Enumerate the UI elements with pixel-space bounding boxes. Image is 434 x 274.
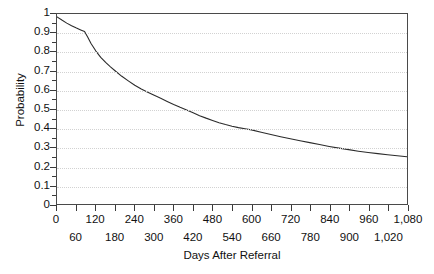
x-axis-title: Days After Referral: [56, 249, 408, 261]
y-tick-mark: [50, 147, 56, 148]
x-tick-mark: [388, 205, 389, 211]
x-tick-mark: [95, 205, 96, 211]
x-tick-mark: [212, 205, 213, 211]
y-tick-label: 0.2: [14, 161, 50, 173]
gridline: [57, 168, 407, 169]
y-tick-label: 0.7: [14, 65, 50, 77]
plot-area: [56, 13, 408, 205]
x-tick-mark: [232, 205, 233, 211]
gridline: [57, 129, 407, 130]
y-tick-mark-minor: [52, 138, 56, 139]
x-tick-mark: [291, 205, 292, 211]
x-tick-mark: [134, 205, 135, 211]
gridline: [57, 33, 407, 34]
y-tick-mark-minor: [52, 195, 56, 196]
x-tick-mark: [154, 205, 155, 211]
y-tick-mark-minor: [52, 176, 56, 177]
gridline: [57, 148, 407, 149]
x-tick-mark: [330, 205, 331, 211]
y-tick-mark: [50, 109, 56, 110]
y-tick-mark-minor: [52, 157, 56, 158]
y-tick-mark: [50, 32, 56, 33]
y-tick-mark: [50, 51, 56, 52]
y-tick-mark-minor: [52, 80, 56, 81]
gridline: [57, 110, 407, 111]
y-tick-mark: [50, 167, 56, 168]
x-tick-mark: [173, 205, 174, 211]
x-tick-mark: [369, 205, 370, 211]
x-tick-mark: [252, 205, 253, 211]
y-tick-mark: [50, 90, 56, 91]
y-tick-label: 0.3: [14, 141, 50, 153]
y-tick-mark-minor: [52, 99, 56, 100]
y-tick-label: 0.4: [14, 122, 50, 134]
survival-curve-figure: Probability 10.90.80.70.60.50.40.30.20.1…: [0, 0, 434, 274]
y-tick-mark-minor: [52, 119, 56, 120]
y-tick-mark-minor: [52, 61, 56, 62]
y-tick-label: 0.9: [14, 26, 50, 38]
x-tick-label: 1,020: [363, 231, 413, 243]
y-tick-mark-minor: [52, 23, 56, 24]
survival-curve-line: [57, 14, 407, 204]
gridline: [57, 91, 407, 92]
x-tick-label: 1,080: [383, 213, 433, 225]
y-tick-label: 0: [14, 199, 50, 211]
x-tick-mark: [115, 205, 116, 211]
y-tick-label: 0.6: [14, 84, 50, 96]
x-tick-mark: [76, 205, 77, 211]
y-tick-label: 0.1: [14, 180, 50, 192]
gridline: [57, 52, 407, 53]
x-tick-mark: [310, 205, 311, 211]
y-tick-mark-minor: [52, 42, 56, 43]
gridline: [57, 72, 407, 73]
x-tick-mark: [408, 205, 409, 211]
y-tick-mark: [50, 13, 56, 14]
y-tick-mark: [50, 71, 56, 72]
x-tick-mark: [56, 205, 57, 211]
x-tick-mark: [349, 205, 350, 211]
gridline: [57, 187, 407, 188]
x-tick-mark: [193, 205, 194, 211]
y-tick-label: 1: [14, 7, 50, 19]
y-tick-label: 0.5: [14, 103, 50, 115]
y-tick-mark: [50, 186, 56, 187]
y-tick-mark: [50, 128, 56, 129]
x-tick-mark: [271, 205, 272, 211]
y-axis-tick-labels: 10.90.80.70.60.50.40.30.20.10: [14, 0, 50, 274]
y-tick-label: 0.8: [14, 45, 50, 57]
